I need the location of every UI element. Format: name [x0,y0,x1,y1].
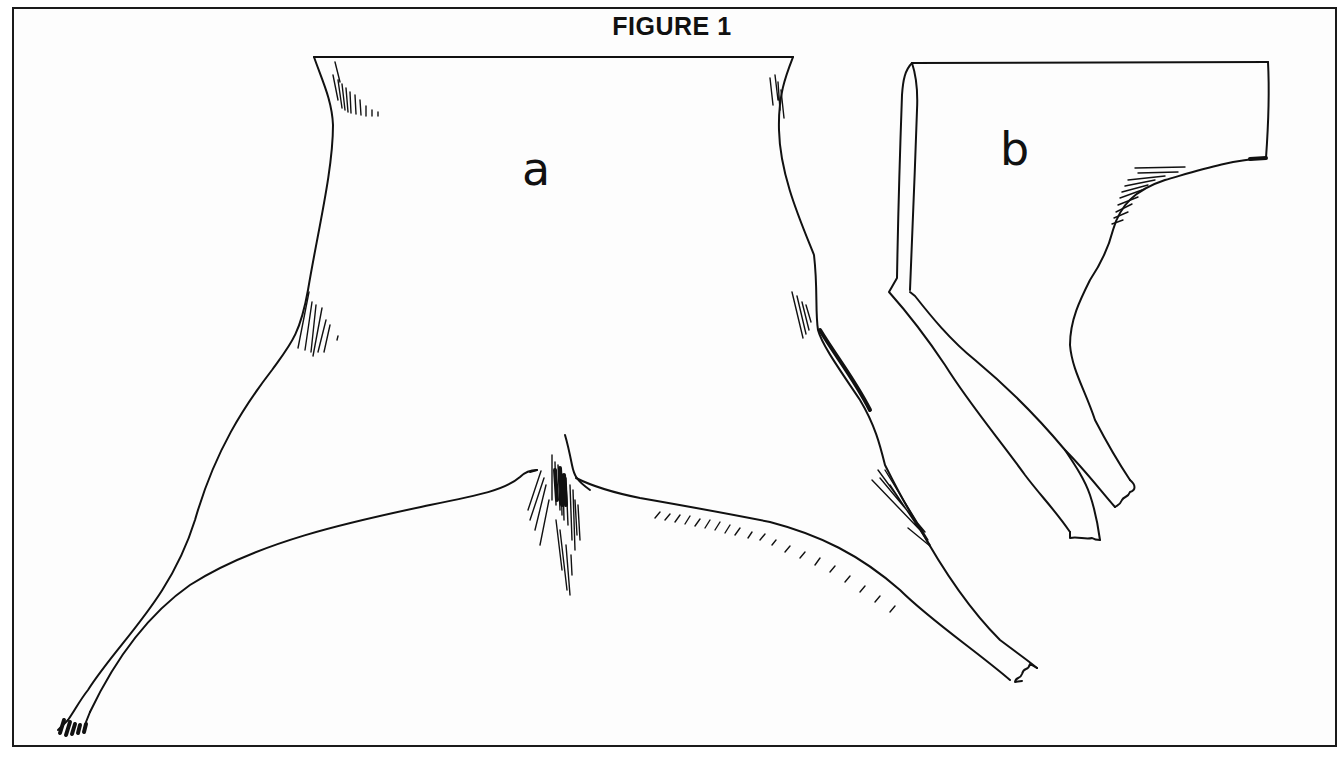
panel-a-hatch-mid-right [792,292,811,338]
panel-b-front-leg-inner [1065,450,1100,540]
panel-b: b [889,62,1269,540]
panel-b-back-foot [1115,480,1135,507]
panel-b-hatch [1112,167,1185,224]
panel-a-right-side-shade [820,330,870,410]
panel-a-label: a [522,142,550,196]
panel-b-back-leg-inner [910,292,1115,507]
panel-a-hatch-mid-left [298,292,338,356]
panel-a-tail-dark [555,468,566,505]
panel-a-hatch-upper-left [333,62,378,116]
figure-drawing: a b [0,0,1344,758]
panel-b-right-edge [1266,62,1269,158]
panel-b-top-edge [912,62,1268,63]
panel-a-right-side [779,57,1037,668]
panel-a: a [58,57,1037,735]
panel-a-hatch-upper-right [770,75,784,118]
panel-b-front-foot [1070,532,1100,540]
panel-b-label: b [1000,122,1029,176]
panel-a-right-foot [1015,664,1037,682]
panel-a-left-foot-claws [60,720,86,735]
panel-a-left-leg-inner [90,470,537,712]
panel-a-hatch-lower-right [655,512,895,612]
panel-a-left-side [68,57,333,720]
panel-a-hatch-right-knee [872,470,930,546]
panel-b-inner-fold [910,63,917,290]
panel-b-underside [1070,158,1266,480]
panel-a-right-leg-inner [576,478,1010,680]
